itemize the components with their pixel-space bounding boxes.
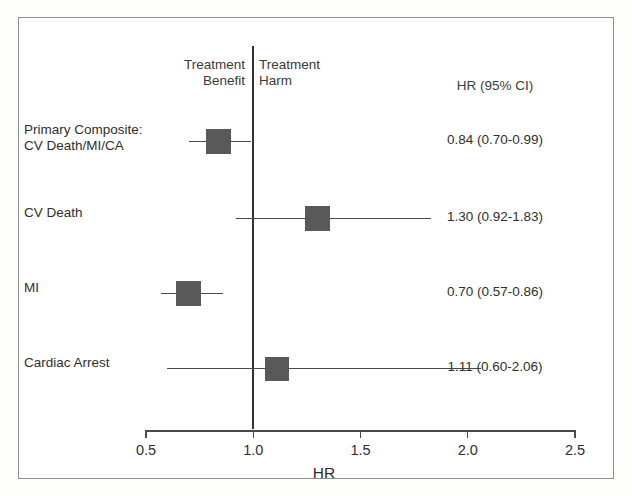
x-axis-tick-label: 1.0 (223, 442, 283, 458)
row-label: CV Death (24, 205, 224, 221)
row-value-text: 1.30 (0.92-1.83) (395, 209, 595, 224)
point-estimate-marker (206, 129, 231, 154)
treatment-harm-label: Treatment Harm (259, 57, 409, 89)
forest-row: Primary Composite: CV Death/MI/CA0.84 (0… (0, 119, 632, 165)
row-value-text: 0.84 (0.70-0.99) (395, 132, 595, 147)
x-axis-tick (145, 430, 146, 438)
row-label: Primary Composite: CV Death/MI/CA (24, 122, 224, 154)
x-axis-tick (574, 430, 575, 438)
forest-row: Cardiac Arrest1.11 (0.60-2.06) (0, 346, 632, 392)
x-axis-tick-label: 2.0 (438, 442, 498, 458)
x-axis-tick (467, 430, 468, 438)
forest-row: CV Death1.30 (0.92-1.83) (0, 196, 632, 242)
point-estimate-marker (305, 206, 330, 231)
x-axis-title-text: HR (313, 464, 335, 481)
x-axis-tick-label: 2.5 (545, 442, 605, 458)
row-value-text: 0.70 (0.57-0.86) (395, 284, 595, 299)
forest-row: MI0.70 (0.57-0.86) (0, 271, 632, 317)
x-axis-tick-label: 0.5 (116, 442, 176, 458)
x-axis-tick-label: 1.5 (331, 442, 391, 458)
x-axis-title: HR (0, 464, 632, 482)
treatment-benefit-label: Treatment Benefit (100, 57, 245, 89)
row-value-text: 1.11 (0.60-2.06) (395, 359, 595, 374)
x-axis-tick (253, 430, 254, 438)
forest-plot-figure: Treatment Benefit Treatment Harm HR (95%… (0, 0, 632, 496)
plot-area: Treatment Benefit Treatment Harm HR (95%… (0, 0, 632, 496)
point-estimate-marker (176, 281, 201, 306)
point-estimate-marker (265, 357, 289, 381)
x-axis-tick (360, 430, 361, 438)
value-column-header: HR (95% CI) (395, 78, 595, 94)
